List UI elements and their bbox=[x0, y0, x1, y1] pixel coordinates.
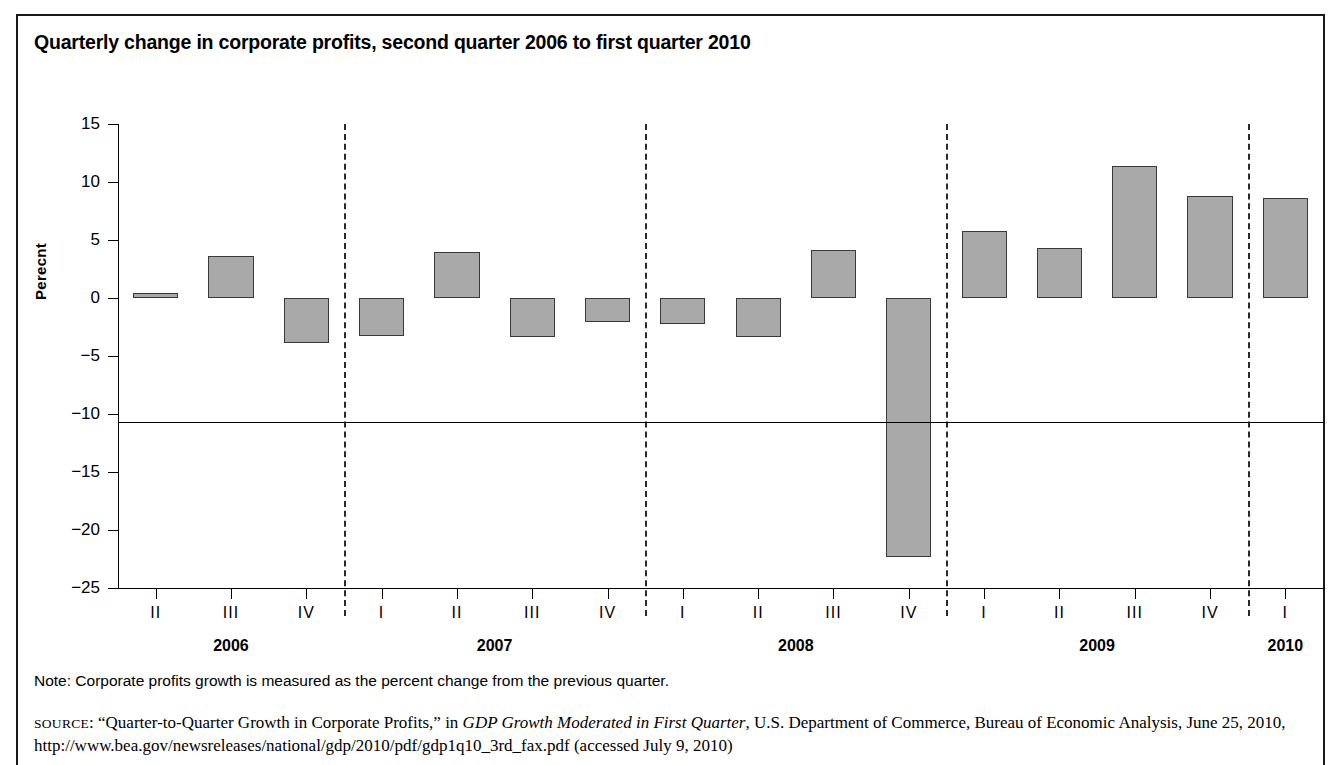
x-axis-year-label: 2007 bbox=[477, 637, 513, 655]
bar bbox=[660, 298, 705, 324]
y-tick-label: −15 bbox=[42, 462, 100, 482]
y-tick-label: −10 bbox=[42, 404, 100, 424]
x-tick-label: IV bbox=[298, 604, 315, 622]
y-axis-line bbox=[118, 124, 119, 588]
y-tick-label: 0 bbox=[42, 288, 100, 308]
x-tick-label: I bbox=[680, 604, 685, 622]
bar bbox=[208, 256, 253, 298]
source-text-1: : “Quarter-to-Quarter Growth in Corporat… bbox=[89, 713, 463, 732]
x-tick-label: III bbox=[1127, 604, 1143, 622]
y-tick bbox=[108, 240, 118, 241]
y-tick bbox=[108, 124, 118, 125]
x-axis-year-label: 2008 bbox=[778, 637, 814, 655]
x-tick bbox=[156, 588, 157, 599]
plot-area bbox=[118, 124, 1323, 588]
y-tick-label: −5 bbox=[42, 346, 100, 366]
y-tick bbox=[108, 182, 118, 183]
year-separator bbox=[645, 124, 647, 616]
bar bbox=[1112, 166, 1157, 298]
page-title: Quarterly change in corporate profits, s… bbox=[34, 31, 751, 54]
y-tick bbox=[108, 530, 118, 531]
year-separator bbox=[946, 124, 948, 616]
x-tick-label: IV bbox=[900, 604, 917, 622]
year-separator bbox=[344, 124, 346, 616]
bar bbox=[359, 298, 404, 336]
bar bbox=[1037, 248, 1082, 298]
bar bbox=[133, 293, 178, 298]
x-tick-label: II bbox=[150, 604, 161, 622]
figure-note: Note: Corporate profits growth is measur… bbox=[34, 672, 669, 690]
x-tick bbox=[532, 588, 533, 599]
y-tick-label: 10 bbox=[42, 172, 100, 192]
x-tick bbox=[457, 588, 458, 599]
bar bbox=[886, 298, 931, 557]
x-tick-label: III bbox=[223, 604, 239, 622]
x-tick-label: II bbox=[1054, 604, 1065, 622]
y-tick-label: −25 bbox=[42, 578, 100, 598]
x-tick-label: III bbox=[524, 604, 540, 622]
x-tick-label: IV bbox=[599, 604, 616, 622]
x-tick bbox=[1285, 588, 1286, 599]
x-tick-label: I bbox=[981, 604, 986, 622]
x-tick bbox=[758, 588, 759, 599]
figure-source: SOURCE: “Quarter-to-Quarter Growth in Co… bbox=[34, 712, 1309, 757]
x-tick bbox=[683, 588, 684, 599]
y-tick bbox=[108, 588, 118, 589]
x-axis-year-label: 2009 bbox=[1079, 637, 1115, 655]
x-axis-line bbox=[118, 588, 1325, 589]
x-tick bbox=[984, 588, 985, 599]
bar bbox=[736, 298, 781, 337]
x-tick bbox=[608, 588, 609, 599]
y-tick bbox=[108, 472, 118, 473]
bar bbox=[962, 231, 1007, 298]
x-tick bbox=[382, 588, 383, 599]
x-tick-label: III bbox=[825, 604, 841, 622]
x-tick-label: I bbox=[1283, 604, 1288, 622]
y-tick-label: −20 bbox=[42, 520, 100, 540]
x-axis-year-label: 2010 bbox=[1268, 637, 1304, 655]
x-tick bbox=[909, 588, 910, 599]
x-tick bbox=[231, 588, 232, 599]
figure-page: Quarterly change in corporate profits, s… bbox=[0, 0, 1339, 765]
x-tick bbox=[1059, 588, 1060, 599]
y-tick bbox=[108, 298, 118, 299]
bar bbox=[585, 298, 630, 322]
x-tick-label: II bbox=[451, 604, 462, 622]
source-label: SOURCE bbox=[34, 716, 89, 731]
y-tick-label: 15 bbox=[42, 114, 100, 134]
x-axis-year-label: 2006 bbox=[213, 637, 249, 655]
bar bbox=[284, 298, 329, 343]
x-tick bbox=[1135, 588, 1136, 599]
bar bbox=[510, 298, 555, 337]
y-tick-label: 5 bbox=[42, 230, 100, 250]
zero-baseline bbox=[118, 422, 1323, 423]
x-tick-label: IV bbox=[1201, 604, 1218, 622]
x-tick bbox=[833, 588, 834, 599]
y-tick bbox=[108, 414, 118, 415]
source-italic-title: GDP Growth Moderated in First Quarter bbox=[463, 713, 746, 732]
x-tick-label: II bbox=[753, 604, 764, 622]
bar bbox=[1263, 198, 1308, 298]
x-tick bbox=[1210, 588, 1211, 599]
x-tick bbox=[306, 588, 307, 599]
bar bbox=[1187, 196, 1232, 298]
year-separator bbox=[1248, 124, 1250, 616]
bar bbox=[811, 250, 856, 298]
y-tick bbox=[108, 356, 118, 357]
bar bbox=[434, 252, 479, 298]
x-tick-label: I bbox=[379, 604, 384, 622]
